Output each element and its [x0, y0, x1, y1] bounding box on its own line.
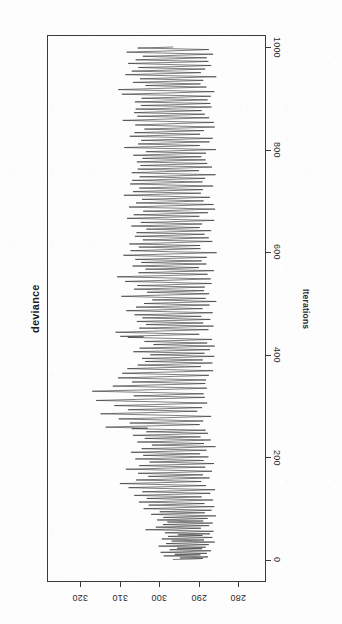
x-axis-tick-mark [266, 150, 271, 151]
y-axis-tick-mark [80, 582, 81, 587]
y-axis-tick-label: 280 [230, 593, 246, 603]
trace-plot-figure: deviance Iterations 02004006008001000 28… [0, 0, 342, 624]
x-axis-tick-label: 600 [272, 244, 282, 260]
x-axis-title: Iterations [301, 289, 311, 329]
y-axis-tick-label: 310 [112, 593, 128, 603]
x-axis-tick-mark [266, 355, 271, 356]
x-axis-tick-label: 400 [272, 347, 282, 363]
y-axis-tick-label: 300 [151, 593, 167, 603]
x-axis-tick-label: 800 [272, 142, 282, 158]
x-axis-tick-mark [266, 47, 271, 48]
y-axis-tick-mark [199, 582, 200, 587]
x-axis-tick-label: 200 [272, 450, 282, 466]
y-axis-tick-label: 290 [191, 593, 207, 603]
page-title: deviance [29, 284, 41, 333]
x-axis-tick-mark [266, 560, 271, 561]
trace-line-chart [48, 36, 265, 581]
x-axis-tick-mark [266, 252, 271, 253]
x-axis-tick-mark [266, 457, 271, 458]
y-axis-tick-label: 320 [72, 593, 88, 603]
x-axis-tick-label: 1000 [272, 37, 282, 58]
y-axis-tick-mark [238, 582, 239, 587]
x-axis-tick-label: 0 [272, 557, 282, 562]
y-axis-tick-mark [120, 582, 121, 587]
y-axis-tick-mark [159, 582, 160, 587]
